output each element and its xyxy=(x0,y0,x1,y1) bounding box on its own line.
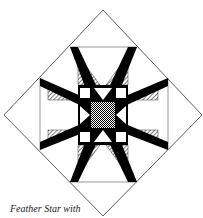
figure-caption: Feather Star with xyxy=(10,203,81,214)
feather-star-illustration xyxy=(0,0,203,218)
center-block xyxy=(78,85,128,145)
